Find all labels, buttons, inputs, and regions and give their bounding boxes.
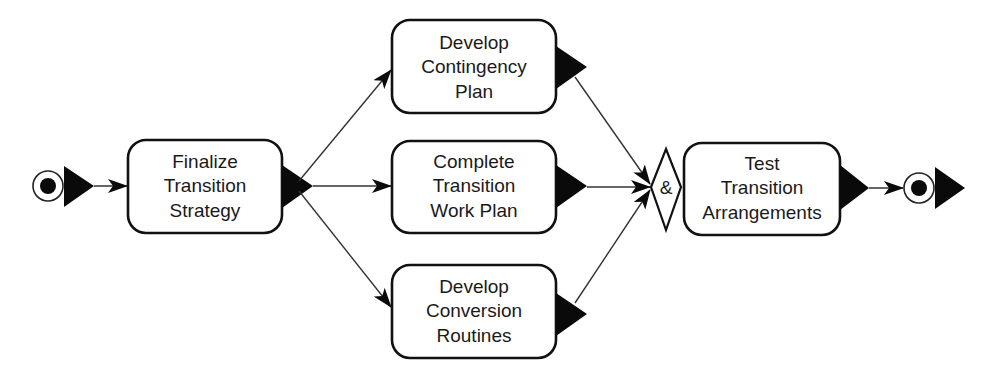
end-node bbox=[904, 167, 965, 209]
activity-label-line-1: Finalize bbox=[172, 151, 237, 172]
activity-label-line-3: Strategy bbox=[170, 200, 241, 221]
activity-label-line-2: Transition bbox=[433, 175, 516, 196]
start-node-dot bbox=[40, 178, 56, 194]
activity-finalize-transition-strategy[interactable]: Finalize Transition Strategy bbox=[128, 140, 313, 233]
activity-develop-contingency-plan[interactable]: Develop Contingency Plan bbox=[392, 20, 587, 113]
activity-complete-transition-work-plan[interactable]: Complete Transition Work Plan bbox=[392, 141, 587, 233]
activity-label-line-3: Work Plan bbox=[430, 200, 517, 221]
activity-label-line-3: Arrangements bbox=[702, 202, 821, 223]
activity-label-line-1: Complete bbox=[433, 151, 514, 172]
output-triangle bbox=[556, 293, 587, 336]
activity-label-line-2: Contingency bbox=[421, 56, 527, 77]
activity-develop-conversion-routines[interactable]: Develop Conversion Routines bbox=[392, 265, 587, 358]
join-symbol: & bbox=[660, 177, 673, 198]
activity-label-line-2: Transition bbox=[164, 175, 247, 196]
activity-diagram: Finalize Transition Strategy Develop Con… bbox=[0, 0, 993, 378]
activity-test-transition-arrangements[interactable]: Test Transition Arrangements bbox=[684, 143, 869, 235]
activity-label-line-2: Transition bbox=[721, 177, 804, 198]
activity-label-line-1: Develop bbox=[439, 32, 509, 53]
start-node-output-triangle bbox=[64, 166, 94, 207]
edge-conversion-to-join bbox=[575, 190, 650, 303]
end-node-dot bbox=[911, 180, 927, 196]
edge-finalize-to-contingency bbox=[299, 70, 391, 181]
activity-label-line-2: Conversion bbox=[426, 300, 522, 321]
and-join-diamond: & bbox=[651, 149, 681, 230]
edge-finalize-to-conversion bbox=[299, 191, 391, 307]
output-triangle bbox=[556, 165, 587, 208]
activity-label-line-1: Test bbox=[745, 153, 781, 174]
output-triangle bbox=[282, 165, 313, 208]
edge-contingency-to-join bbox=[575, 77, 650, 184]
activity-label-line-3: Routines bbox=[437, 325, 512, 346]
output-triangle bbox=[840, 165, 869, 210]
activity-label-line-3: Plan bbox=[455, 81, 493, 102]
end-node-output-triangle bbox=[935, 167, 965, 209]
output-triangle bbox=[556, 46, 587, 89]
start-node bbox=[33, 166, 94, 207]
activity-label-line-1: Develop bbox=[439, 276, 509, 297]
